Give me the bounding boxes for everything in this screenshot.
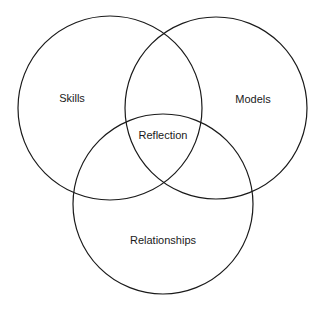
- models-label: Models: [235, 93, 271, 105]
- skills-circle: [18, 16, 202, 200]
- models-circle: [125, 17, 307, 199]
- relationships-circle: [73, 114, 253, 294]
- reflection-label: Reflection: [139, 129, 188, 141]
- skills-label: Skills: [59, 92, 85, 104]
- venn-diagram: Skills Models Relationships Reflection: [0, 0, 323, 309]
- relationships-label: Relationships: [130, 234, 197, 246]
